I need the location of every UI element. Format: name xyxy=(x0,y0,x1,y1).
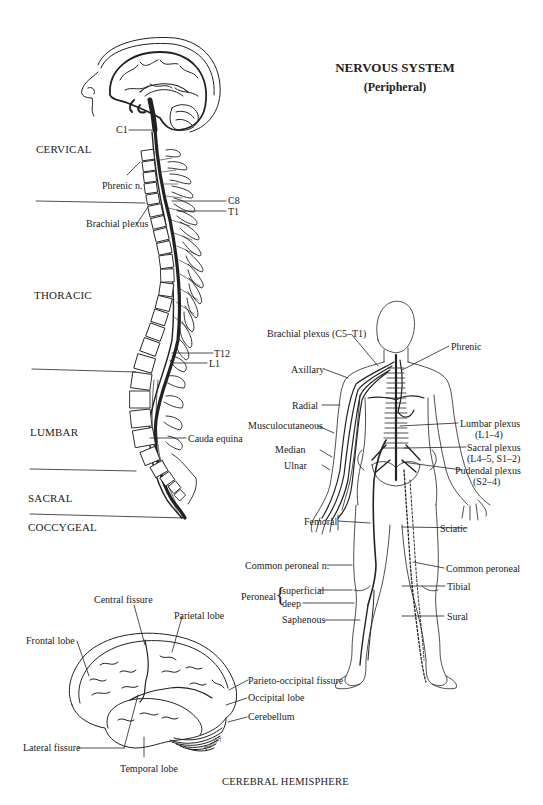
diagram-title: NERVOUS SYSTEM xyxy=(320,60,470,76)
label-brachial-plexus: Brachial plexus xyxy=(86,218,148,229)
label-tibial: Tibial xyxy=(447,581,471,592)
region-sacral: SACRAL xyxy=(28,492,73,504)
label-musculocutaneous: Musculocutaneous xyxy=(248,420,323,431)
label-parietal-lobe: Parietal lobe xyxy=(174,610,224,621)
sagittal-head xyxy=(82,37,221,132)
label-sural: Sural xyxy=(447,611,468,622)
region-thoracic: THORACIC xyxy=(34,289,92,301)
label-sacral-plexus-range: (L4–5, S1–2) xyxy=(467,453,520,464)
label-axillary: Axillary xyxy=(291,364,324,375)
label-common-peroneal: Common peroneal xyxy=(446,563,520,574)
label-median: Median xyxy=(275,444,306,455)
label-peroneal: Peroneal xyxy=(241,591,276,602)
diagram-subtitle: (Peripheral) xyxy=(320,80,470,95)
label-c1: C1 xyxy=(116,124,128,135)
label-temporal-lobe: Temporal lobe xyxy=(120,763,178,774)
caption-cerebral-hemisphere: CEREBRAL HEMISPHERE xyxy=(222,776,349,787)
label-pudendal-plexus: Pudendal plexus xyxy=(455,465,521,476)
label-frontal-lobe: Frontal lobe xyxy=(26,635,75,646)
label-lateral-fissure: Lateral fissure xyxy=(23,742,80,753)
label-lumbar-plexus-range: (L1–4) xyxy=(475,429,503,440)
label-occipital-lobe: Occipital lobe xyxy=(248,692,304,703)
body-leaders xyxy=(303,335,467,620)
label-c8: C8 xyxy=(228,195,240,206)
label-sacral-plexus: Sacral plexus xyxy=(467,442,521,453)
region-cervical: CERVICAL xyxy=(36,143,92,155)
lateral-brain xyxy=(69,633,236,751)
region-lumbar: LUMBAR xyxy=(30,426,78,438)
label-pudendal-plexus-range: (S2–4) xyxy=(473,476,500,487)
label-parieto-occipital-fissure: Parieto-occipital fissure xyxy=(248,675,343,686)
label-brachial-plexus-c5-t1: Brachial plexus (C5–T1) xyxy=(267,328,366,339)
label-lumbar-plexus: Lumbar plexus xyxy=(460,418,520,429)
label-central-fissure: Central fissure xyxy=(94,594,153,605)
label-sciatic: Sciatic xyxy=(440,523,467,534)
region-coccygeal: COCCYGEAL xyxy=(28,521,97,533)
label-ulnar: Ulnar xyxy=(284,460,307,471)
label-phrenic: Phrenic xyxy=(451,341,482,352)
label-t1: T1 xyxy=(228,206,239,217)
label-deep: deep xyxy=(282,598,301,609)
label-phrenic-n: Phrenic n. xyxy=(102,180,143,191)
label-radial: Radial xyxy=(292,400,318,411)
label-common-peroneal-n: Common peroneal n. xyxy=(245,560,329,571)
label-femoral: Femoral xyxy=(304,516,337,527)
label-cerebellum: Cerebellum xyxy=(248,711,295,722)
label-cauda-equina: Cauda equina xyxy=(188,433,243,444)
label-l1: L1 xyxy=(209,358,220,369)
label-saphenous: Saphenous xyxy=(282,614,325,625)
label-superficial: superficial xyxy=(282,585,324,596)
